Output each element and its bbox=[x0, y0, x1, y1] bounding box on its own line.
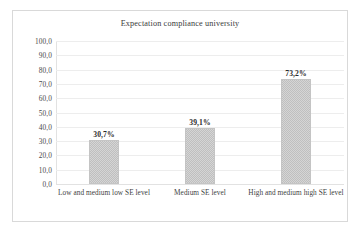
bar-slot: 39,1% bbox=[152, 41, 248, 184]
bar-value-label: 39,1% bbox=[189, 118, 210, 127]
x-tick-label: Low and medium low SE level bbox=[56, 188, 152, 198]
y-tick-label: 0,0 bbox=[43, 180, 52, 189]
y-tick-label: 30,0 bbox=[39, 137, 52, 146]
chart-title: Expectation compliance university bbox=[13, 19, 347, 28]
chart-figure: Expectation compliance university 100,0 … bbox=[12, 10, 348, 222]
bar[interactable] bbox=[89, 140, 119, 184]
y-tick-label: 10,0 bbox=[39, 165, 52, 174]
y-tick-label: 80,0 bbox=[39, 65, 52, 74]
bar[interactable] bbox=[185, 128, 215, 184]
bar[interactable] bbox=[281, 79, 311, 184]
y-tick-label: 50,0 bbox=[39, 108, 52, 117]
bar-slot: 73,2% bbox=[248, 41, 344, 184]
y-tick-label: 20,0 bbox=[39, 151, 52, 160]
y-tick-label: 60,0 bbox=[39, 94, 52, 103]
x-tick-label: Medium SE level bbox=[152, 188, 248, 198]
plot-area: 30,7% 39,1% 73,2% bbox=[56, 41, 344, 184]
bar-slot: 30,7% bbox=[56, 41, 152, 184]
y-tick-label: 90,0 bbox=[39, 51, 52, 60]
y-tick-label: 100,0 bbox=[35, 37, 52, 46]
bar-value-label: 30,7% bbox=[93, 130, 114, 139]
y-tick-label: 40,0 bbox=[39, 122, 52, 131]
bar-value-label: 73,2% bbox=[285, 69, 306, 78]
axis-baseline bbox=[56, 184, 344, 185]
y-tick-label: 70,0 bbox=[39, 79, 52, 88]
y-axis-tick-labels: 100,0 90,0 80,0 70,0 60,0 50,0 40,0 30,0… bbox=[13, 41, 52, 184]
x-tick-label: High and medium high SE level bbox=[248, 188, 344, 198]
x-axis-category-labels: Low and medium low SE level Medium SE le… bbox=[56, 188, 344, 220]
